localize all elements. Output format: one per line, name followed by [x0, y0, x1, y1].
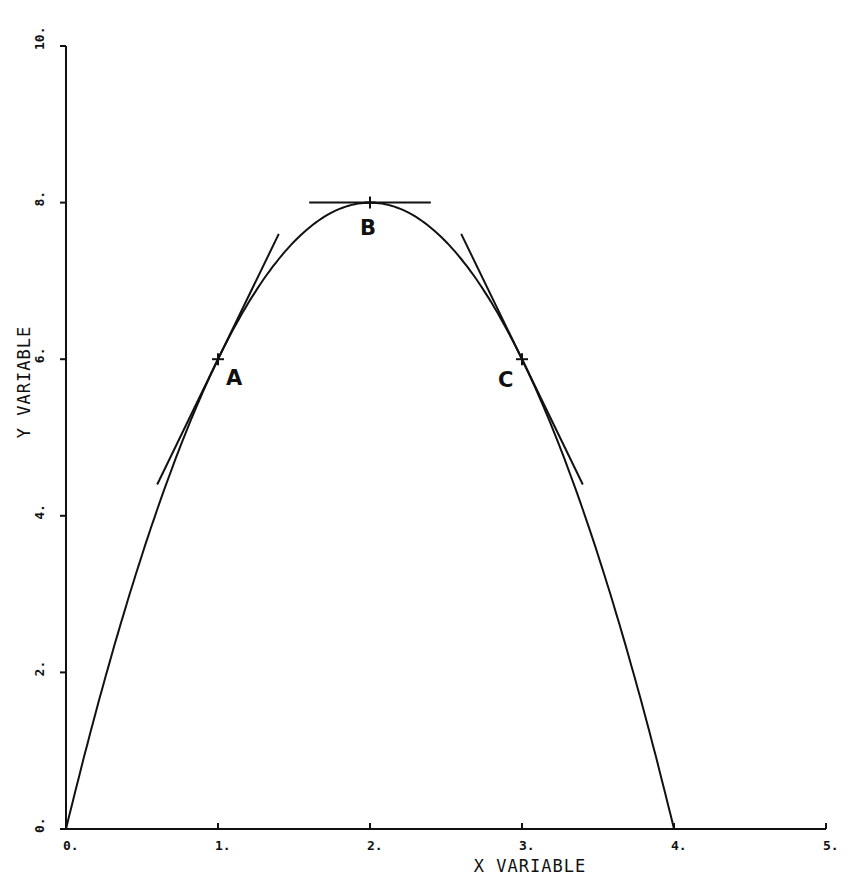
x-axis-label: X VARIABLE [474, 856, 586, 876]
parabola-curve [66, 203, 674, 829]
y-tick-label: 10. [32, 27, 47, 50]
point-label-b: B [360, 216, 376, 240]
x-tick-label: 4. [671, 838, 687, 853]
y-tick-label: 0. [32, 817, 47, 833]
y-tick-label: 6. [32, 348, 47, 364]
point-label-a: A [226, 366, 243, 390]
point-label-c: C [498, 368, 513, 392]
x-tick-label: 0. [63, 838, 79, 853]
x-tick-label: 5. [823, 838, 839, 853]
y-tick-label: 8. [32, 191, 47, 207]
x-tick-label: 2. [367, 838, 383, 853]
y-axis-label: Y VARIABLE [14, 326, 34, 438]
y-tick-label: 4. [32, 504, 47, 520]
y-tick-label: 2. [32, 661, 47, 677]
plot-area: 0.1.2.3.4.5.0.2.4.6.8.10.X VARIABLEY VAR… [0, 0, 852, 891]
x-tick-label: 3. [519, 838, 535, 853]
x-tick-label: 1. [215, 838, 231, 853]
